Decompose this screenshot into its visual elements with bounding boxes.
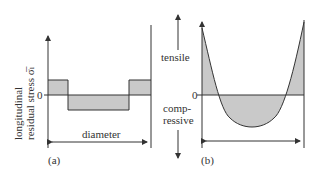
- stress-profile-b: [202, 22, 304, 127]
- residual-stress-diagram: [0, 0, 313, 175]
- compressive-label-line2: ressive: [163, 115, 194, 126]
- caption-a: (a): [48, 155, 60, 166]
- diameter-label: diameter: [82, 129, 120, 140]
- tensile-label: tensile: [161, 52, 190, 63]
- y-axis-label-line2: residual stress σ̅ₗ: [24, 67, 36, 140]
- panel-b: [178, 15, 304, 158]
- zero-label-a: 0: [37, 90, 43, 101]
- zero-label-b: 0: [192, 90, 198, 101]
- compressive-label-line1: comp-: [163, 103, 191, 114]
- y-axis-label-line1: longitudinal: [12, 87, 24, 140]
- caption-b: (b): [201, 155, 214, 166]
